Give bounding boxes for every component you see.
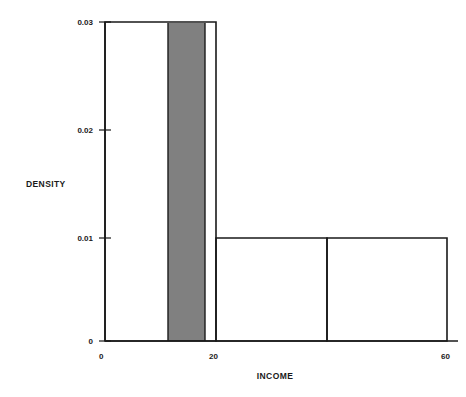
- y-axis-title: DENSITY: [26, 179, 66, 189]
- y-tick-label-0.01: 0.01: [77, 234, 93, 243]
- shaded-band: [168, 23, 205, 341]
- x-tick-label-60: 60: [441, 352, 450, 361]
- histogram-chart: 0.03 0.02 0.01 0 0 20 60 DENSITY INCOME: [0, 0, 466, 397]
- y-tick-label-0: 0: [89, 337, 94, 346]
- y-tick-label-0.03: 0.03: [77, 18, 93, 27]
- bar-bin-20-40: [216, 238, 327, 341]
- chart-canvas: 0.03 0.02 0.01 0 0 20 60 DENSITY INCOME: [0, 0, 466, 397]
- x-tick-label-0: 0: [99, 352, 104, 361]
- x-tick-label-20: 20: [209, 352, 218, 361]
- x-axis-title: INCOME: [257, 371, 293, 381]
- y-tick-label-0.02: 0.02: [77, 126, 93, 135]
- bar-bin-40-60: [327, 238, 447, 341]
